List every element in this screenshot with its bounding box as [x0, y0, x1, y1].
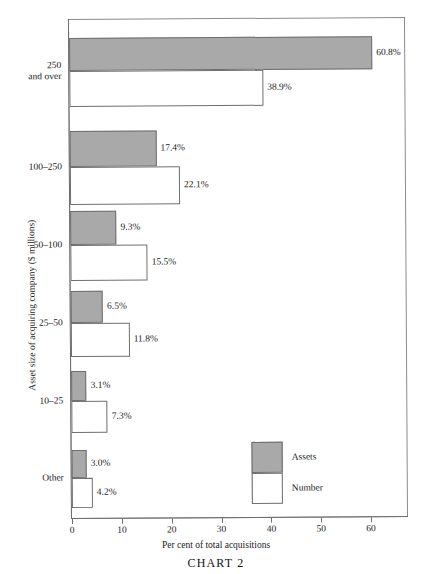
x-tick-label: 0	[70, 525, 75, 535]
bar-value-label-number: 11.8%	[134, 333, 158, 343]
bar-number	[71, 401, 108, 433]
bar-number	[72, 478, 93, 508]
plot-area: 0102030405060 60.8%38.9%17.4%22.1%9.3%15…	[0, 0, 432, 574]
y-axis-title: Asset size of acquiring company ($ milli…	[26, 190, 37, 420]
category-label: Other	[0, 473, 64, 484]
bar-value-label-number: 4.2%	[97, 487, 117, 497]
x-tick-label: 40	[267, 524, 277, 534]
chart-title: CHART 2	[0, 556, 432, 571]
bar-number	[71, 323, 130, 357]
x-tick-label: 50	[316, 523, 326, 533]
legend-swatch-number	[252, 473, 283, 504]
x-tick	[72, 519, 73, 524]
x-tick	[271, 518, 272, 523]
x-tick	[122, 519, 123, 524]
chart-container: 0102030405060 60.8%38.9%17.4%22.1%9.3%15…	[0, 0, 432, 574]
legend-swatch-assets	[252, 442, 283, 473]
bar-number	[69, 70, 263, 107]
bar-assets	[70, 130, 157, 167]
bar-value-label-assets: 9.3%	[121, 222, 141, 232]
x-tick	[321, 517, 322, 522]
bar-number	[70, 245, 147, 281]
bar-assets	[71, 371, 87, 401]
x-tick-label: 30	[217, 524, 227, 534]
bar-assets	[72, 450, 87, 478]
bar-value-label-number: 15.5%	[152, 256, 177, 266]
x-tick	[371, 517, 372, 522]
bar-value-label-assets: 3.1%	[91, 380, 111, 390]
x-tick-label: 10	[117, 525, 127, 535]
bar-value-label-number: 22.1%	[184, 179, 209, 189]
x-tick-label: 20	[167, 524, 177, 534]
bar-value-label-assets: 3.0%	[91, 458, 111, 468]
bar-assets	[69, 36, 372, 71]
x-tick	[172, 518, 173, 523]
bar-number	[70, 166, 180, 205]
x-tick	[222, 518, 223, 523]
bar-value-label-number: 38.9%	[267, 82, 292, 92]
category-label: 250 and over	[0, 60, 61, 82]
x-axis-title: Per cent of total acquisitions	[0, 540, 432, 550]
bar-value-label-number: 7.3%	[112, 411, 132, 421]
category-label: 100–250	[0, 162, 62, 173]
legend-label-assets: Assets	[292, 452, 317, 462]
bar-value-label-assets: 60.8%	[376, 46, 401, 56]
bar-value-label-assets: 6.5%	[107, 301, 127, 311]
bar-value-label-assets: 17.4%	[160, 142, 185, 152]
x-tick-label: 60	[366, 523, 376, 533]
bar-assets	[71, 291, 104, 323]
legend-label-number: Number	[292, 482, 323, 492]
bar-assets	[70, 211, 117, 245]
